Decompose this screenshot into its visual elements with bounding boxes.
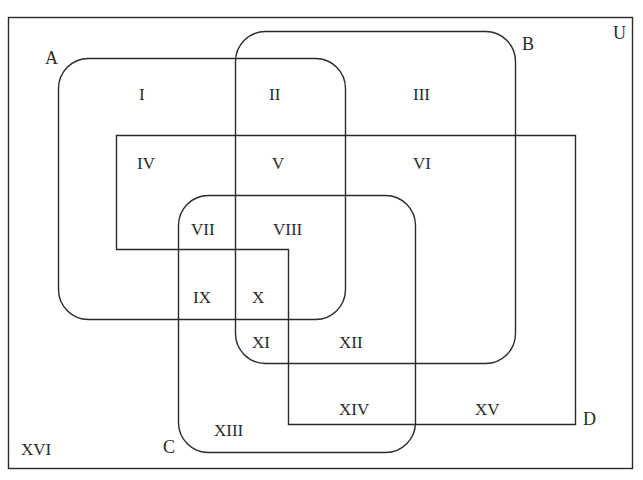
region-label-vii: VII: [191, 220, 215, 239]
set-a-boundary: [59, 59, 346, 320]
venn-diagram: U A B C D I II III IV V VI VII VIII IX X…: [0, 0, 643, 480]
set-label-b: B: [522, 34, 534, 54]
set-label-c: C: [163, 437, 175, 457]
region-label-iv: IV: [137, 154, 156, 173]
region-label-xi: XI: [252, 333, 270, 352]
region-label-vi: VI: [413, 154, 431, 173]
region-label-iii: III: [413, 85, 430, 104]
region-label-xvi: XVI: [21, 440, 52, 459]
region-label-xii: XII: [339, 333, 363, 352]
region-label-x: X: [252, 288, 264, 307]
region-label-ii: II: [269, 85, 281, 104]
region-label-i: I: [139, 85, 145, 104]
region-label-xiv: XIV: [339, 400, 370, 419]
set-b-boundary: [236, 32, 516, 364]
region-label-v: V: [272, 154, 285, 173]
region-label-viii: VIII: [273, 220, 303, 239]
region-label-xiii: XIII: [214, 421, 244, 440]
set-label-d: D: [583, 409, 596, 429]
region-label-ix: IX: [193, 288, 211, 307]
set-label-a: A: [45, 48, 58, 68]
region-label-xv: XV: [475, 400, 500, 419]
universe-boundary: [9, 18, 633, 469]
set-label-u: U: [613, 23, 626, 43]
